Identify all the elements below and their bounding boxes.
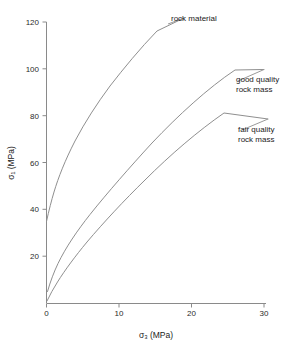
x-tick-label-30: 30 (260, 309, 269, 318)
annotation-fair-quality-line1: fair quality (238, 125, 274, 134)
annotation-rock-material: rock material (171, 14, 217, 23)
y-tick-label-20: 20 (30, 252, 39, 261)
x-axis-ticks (47, 304, 265, 308)
x-tick-label-0: 0 (44, 309, 49, 318)
x-tick-label-10: 10 (115, 309, 124, 318)
curve-fair-quality-rock-mass (47, 113, 268, 301)
y-tick-label-100: 100 (26, 65, 40, 74)
stress-curves-plot: 120 100 80 60 40 20 0 10 20 30 σ₃ (MPa) … (0, 0, 296, 346)
annotation-good-quality-line1: good quality (236, 75, 279, 84)
x-axis-title: σ₃ (MPa) (139, 330, 173, 340)
annotation-fair-quality-line2: rock mass (238, 135, 274, 144)
y-tick-label-40: 40 (30, 205, 39, 214)
y-tick-label-120: 120 (26, 18, 40, 27)
chart-figure: 120 100 80 60 40 20 0 10 20 30 σ₃ (MPa) … (0, 0, 296, 346)
annotation-good-quality-line2: rock mass (236, 85, 272, 94)
y-axis-ticks (43, 22, 47, 256)
y-tick-label-80: 80 (30, 112, 39, 121)
y-tick-label-60: 60 (30, 159, 39, 168)
curve-rock-material (47, 18, 185, 222)
y-axis-title: σ₁ (MPa) (6, 146, 16, 180)
x-tick-label-20: 20 (187, 309, 196, 318)
curve-good-quality-rock-mass (48, 70, 265, 292)
